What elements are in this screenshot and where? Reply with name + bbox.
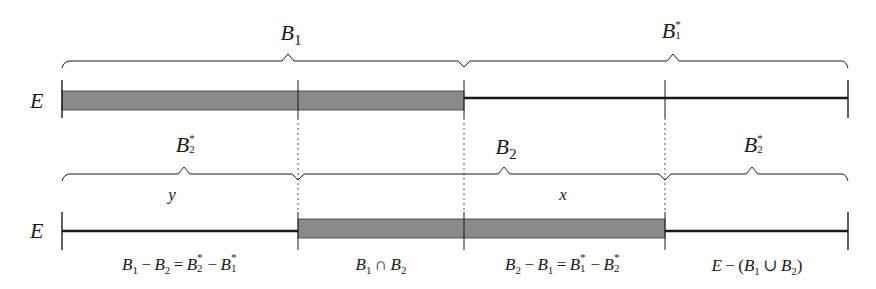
label-base: B [744,132,757,157]
sub-sup-stack: *2 [757,142,764,152]
brace-label-b2-star-left: B*2 [176,134,196,156]
top-brace-b1-star [464,54,848,68]
brace-label-b1-star: B*1 [662,20,682,42]
variable-y: y [168,186,176,203]
bottom-brace-b2-star-left [62,167,298,181]
dotted-connectors [298,118,665,212]
label-sub: 2 [189,144,195,155]
label-sub: 1 [675,30,681,41]
label-base: B [495,134,508,159]
region-label-b1-cap-b2: B1 ∩ B2 [356,255,407,276]
label-base: B [662,18,675,43]
label-base: B [176,132,189,157]
bottom-brace-b2 [298,167,665,180]
sub-sup-stack: *1 [675,28,682,38]
set-label-top: E [30,88,43,114]
brace-label-b2-star-right: B*2 [744,134,764,156]
sub-sup-stack: *2 [189,142,196,152]
brace-label-b1: B1 [280,22,301,48]
label-sub: 2 [757,144,763,155]
label-sub: 1 [294,31,302,48]
region-label-b2-minus-b1: B2 − B1 = B*1 − B*2 [505,255,621,276]
variable-x: x [559,186,567,203]
bottom-brace-b2-star-right [665,167,848,181]
top-brace-b1 [62,54,464,68]
region-label-b1-minus-b2: B1 − B2 = B*2 − B*1 [122,255,238,276]
top-shaded-bar-b1 [62,91,464,110]
label-base: B [280,20,293,45]
set-label-bottom: E [30,218,43,244]
brace-label-b2: B2 [495,136,516,162]
label-sub: 2 [509,145,517,162]
bottom-shaded-bar-b2 [298,219,665,238]
region-label-complement-union: E − (B1 ∪ B2) [712,255,803,277]
